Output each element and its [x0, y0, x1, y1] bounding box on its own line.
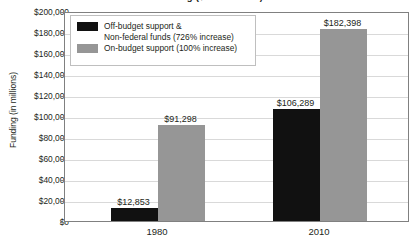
bar-value-label: $106,289 [277, 98, 315, 108]
chart-legend: Off-budget support & Non-federal funds (… [70, 15, 256, 66]
legend-swatch-black-icon [77, 22, 98, 31]
bar [320, 29, 367, 221]
chart-title: Funding ($2015 Billion) [0, 0, 417, 2]
bar [158, 125, 205, 221]
legend-swatch-gray-icon [77, 44, 98, 53]
bar-value-label: $91,298 [164, 114, 197, 124]
legend-item-on-budget: On-budget support (100% increase) [77, 43, 249, 54]
x-tick-label: 1980 [146, 226, 167, 237]
legend-item-off-budget: Off-budget support & Non-federal funds (… [77, 21, 249, 42]
legend-label-on-budget: On-budget support (100% increase) [104, 43, 237, 54]
bar-value-label: $12,853 [117, 197, 150, 207]
bar [111, 208, 158, 221]
legend-label-off-budget-line1: Off-budget support & [104, 21, 182, 31]
y-tick-mark [60, 222, 64, 223]
bar-value-label: $182,398 [324, 18, 362, 28]
bar [273, 109, 320, 221]
x-tick-label: 2010 [308, 226, 329, 237]
legend-label-off-budget-line2: Non-federal funds (726% increase) [104, 32, 234, 43]
y-axis-title: Funding (in millions) [8, 50, 18, 170]
